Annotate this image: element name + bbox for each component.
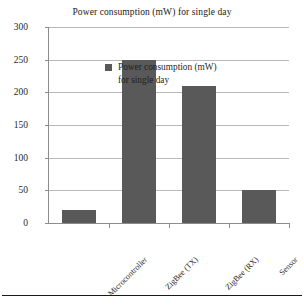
category-tick-mark	[229, 223, 230, 228]
y-axis-tick-label: 0	[0, 218, 28, 228]
legend-label: Power consumption (mW) for single day	[118, 61, 217, 86]
category-tick-mark	[109, 223, 110, 228]
category-tick-mark	[169, 223, 170, 228]
y-axis-tick-mark	[45, 223, 49, 224]
legend-swatch-icon	[105, 64, 112, 71]
bar-slot	[169, 27, 229, 223]
x-axis-label: ZigBee (TX)	[163, 255, 199, 291]
y-axis-tick-label: 150	[0, 120, 28, 130]
bar[interactable]	[242, 190, 276, 223]
x-axis-label: Sensor	[278, 255, 300, 277]
chart-legend: Power consumption (mW) for single day	[105, 61, 217, 86]
y-axis-tick-label: 300	[0, 22, 28, 32]
x-axis-label: Microcontroller	[106, 255, 149, 298]
bar[interactable]	[62, 210, 96, 223]
chart-figure: Power consumption (mW) for single day 05…	[0, 0, 304, 307]
plot-area: 050100150200250300 MicrocontrollerZigBee…	[48, 27, 288, 223]
x-axis-label: ZigBee (RX)	[224, 255, 261, 292]
bar-slot	[109, 27, 169, 223]
bar-slot	[49, 27, 109, 223]
y-axis-tick-label: 250	[0, 55, 28, 65]
bottom-divider	[2, 295, 302, 296]
bars-group	[49, 27, 289, 223]
legend-label-line1: Power consumption (mW)	[118, 61, 217, 74]
legend-label-line2: for single day	[118, 74, 217, 87]
y-axis-tick-label: 100	[0, 153, 28, 163]
bar-slot	[229, 27, 289, 223]
chart-title: Power consumption (mW) for single day	[0, 7, 304, 17]
bar[interactable]	[182, 86, 216, 223]
category-tick-mark	[289, 223, 290, 228]
y-axis-tick-label: 200	[0, 87, 28, 97]
y-axis-tick-label: 50	[0, 185, 28, 195]
